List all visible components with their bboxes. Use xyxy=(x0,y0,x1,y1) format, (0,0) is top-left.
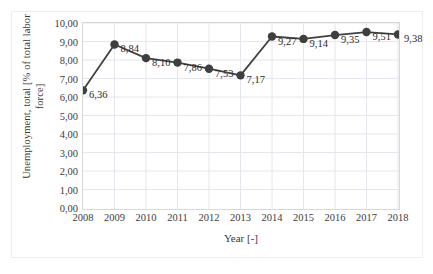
y-axis-title-line-1: Unemployment, total [% of total labor xyxy=(21,2,34,192)
y-axis-tick-label: 2,00 xyxy=(38,166,78,177)
data-point-label: 7,17 xyxy=(247,74,265,85)
y-axis-tick-label: 3,00 xyxy=(38,147,78,158)
x-axis-tick-label: 2018 xyxy=(375,212,421,223)
data-point-label: 9,14 xyxy=(310,37,328,48)
data-point-label: 9,51 xyxy=(373,31,391,42)
y-axis-tick-label: 5,00 xyxy=(38,110,78,121)
y-axis-tick-label: 6,00 xyxy=(38,92,78,103)
data-point-label: 7,53 xyxy=(215,67,233,78)
y-axis-title-wrap: Unemployment, total [% of total labor fo… xyxy=(0,0,40,232)
y-axis-tick-label: 9,00 xyxy=(38,36,78,47)
y-axis-tick-label: 1,00 xyxy=(38,184,78,195)
data-point-label: 9,27 xyxy=(278,35,296,46)
data-point-label: 7,86 xyxy=(184,61,202,72)
y-axis-tick-label: 4,00 xyxy=(38,129,78,140)
data-label-layer: 6,368,848,107,867,537,179,279,149,359,51… xyxy=(82,22,422,210)
data-point-label: 6,36 xyxy=(89,89,107,100)
data-point-label: 9,35 xyxy=(341,34,359,45)
data-point-label: 9,38 xyxy=(404,33,422,44)
data-point-label: 8,84 xyxy=(121,43,139,54)
y-axis-tick-label: 7,00 xyxy=(38,73,78,84)
y-axis-tick-label: 8,00 xyxy=(38,55,78,66)
chart-figure: Unemployment, total [% of total labor fo… xyxy=(0,0,433,274)
x-axis-title: Year [-] xyxy=(82,232,400,244)
y-axis-tick-labels: 0,001,002,003,004,005,006,007,008,009,00… xyxy=(36,22,78,210)
x-axis-tick-labels: 2008200920102011201220132014201520162017… xyxy=(82,212,400,230)
y-axis-tick-label: 10,00 xyxy=(38,18,78,29)
data-point-label: 8,10 xyxy=(152,57,170,68)
